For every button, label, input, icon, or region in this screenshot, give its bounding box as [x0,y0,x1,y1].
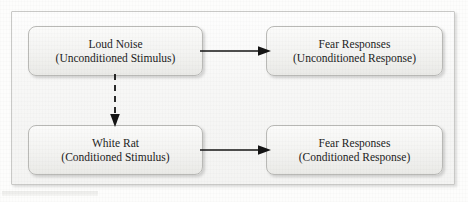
connector-us-to-cs [104,74,126,128]
scan-artifact [2,191,98,196]
node-conditioned-response-label: Fear Responses [319,136,391,150]
node-conditioned-response[interactable]: Fear Responses (Conditioned Response) [266,125,443,175]
arrow-down-head-icon [110,114,120,127]
arrow-right-head-icon [258,46,271,56]
node-conditioned-stimulus[interactable]: White Rat (Conditioned Stimulus) [28,125,203,175]
node-conditioned-response-sublabel: (Conditioned Response) [299,150,410,164]
node-unconditioned-stimulus-sublabel: (Unconditioned Stimulus) [56,51,176,65]
node-unconditioned-response-sublabel: (Unconditioned Response) [293,51,416,65]
node-unconditioned-response[interactable]: Fear Responses (Unconditioned Response) [266,26,443,76]
node-unconditioned-stimulus[interactable]: Loud Noise (Unconditioned Stimulus) [28,26,203,76]
node-unconditioned-stimulus-label: Loud Noise [89,37,143,51]
connector-cs-to-cr [200,139,272,161]
node-unconditioned-response-label: Fear Responses [319,37,391,51]
node-conditioned-stimulus-label: White Rat [92,136,139,150]
diagram-canvas: Loud Noise (Unconditioned Stimulus) Fear… [0,0,468,202]
connector-us-to-ur [200,40,272,62]
node-conditioned-stimulus-sublabel: (Conditioned Stimulus) [61,150,169,164]
arrow-right-head-icon [258,145,271,155]
